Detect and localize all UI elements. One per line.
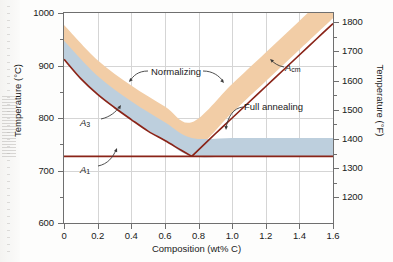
y-right-tick [334,81,339,82]
y-right-tick-label: 1200 [342,191,382,202]
y-right-tick [334,22,339,23]
annotation-acm: Acm [285,62,301,73]
x-tick [165,224,166,229]
y-right-tick [334,197,339,198]
x-tick [333,224,334,229]
y-right-tick [334,51,339,52]
y-right-tick [334,110,339,111]
x-tick [266,224,267,229]
x-axis-title: Composition (wt% C) [0,243,393,254]
x-tick [299,224,300,229]
x-tick [98,224,99,229]
y-right-axis-title: Temperature (°F) [375,46,386,156]
y-right-minor-tick [334,183,337,184]
annotation-normalizing: Normalizing [151,66,201,77]
x-tick-label: 1.6 [313,230,353,241]
y-right-minor-tick [334,154,337,155]
x-tick [64,224,65,229]
y-right-tick-label: 1800 [342,16,382,27]
plot-area [63,12,334,224]
x-tick [131,224,132,229]
y-right-minor-tick [334,37,337,38]
plot-inner [64,13,333,223]
y-left-minor-tick [60,39,63,40]
y-left-tick [58,118,63,119]
y-right-tick [334,139,339,140]
phase-band-svg [64,13,333,223]
annotation-full-annealing: Full annealing [244,101,303,112]
y-right-tick [334,168,339,169]
y-left-tick-label: 700 [14,165,54,176]
y-left-axis-title: Temperature (°C) [12,46,23,156]
annotation-a1: A1 [80,164,90,175]
y-left-minor-tick [60,197,63,198]
y-left-minor-tick [60,144,63,145]
x-tick [199,224,200,229]
annotation-a3: A3 [80,117,90,128]
acm-boundary-line [192,24,333,157]
x-tick [232,224,233,229]
y-left-tick [58,66,63,67]
y-left-minor-tick [60,92,63,93]
y-left-tick [58,223,63,224]
y-right-minor-tick [334,95,337,96]
y-right-tick-label: 1300 [342,162,382,173]
y-left-tick [58,13,63,14]
y-left-tick [58,171,63,172]
phase-diagram-figure: 6007008009001000120013001400150016001700… [0,0,393,262]
y-right-minor-tick [334,124,337,125]
y-right-minor-tick [334,66,337,67]
y-left-tick-label: 600 [14,217,54,228]
y-left-tick-label: 1000 [14,7,54,18]
